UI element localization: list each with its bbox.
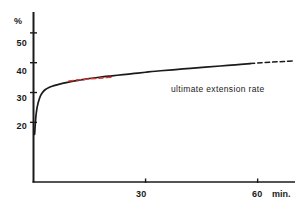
x-tick-label-30: 30 [136, 190, 146, 199]
annotation-ultimate-extension-rate: ultimate extension rate [171, 85, 265, 94]
y-tick-label-50: 50 [9, 39, 27, 48]
chart-series-group [35, 61, 295, 134]
y-tick-label-40: 40 [9, 67, 27, 76]
x-tick-label-60: 60 [252, 190, 262, 199]
y-tick-label-20: 20 [9, 122, 27, 131]
chart-figure: % 50 40 30 20 30 60 min. ultimate extens… [0, 0, 302, 211]
chart-plot-area [0, 0, 302, 211]
series-line-0 [35, 64, 251, 135]
y-tick-label-30: 30 [9, 94, 27, 103]
x-axis-unit-label: min. [272, 190, 291, 199]
y-axis-unit-label: % [14, 17, 22, 26]
series-line-1 [250, 61, 295, 64]
